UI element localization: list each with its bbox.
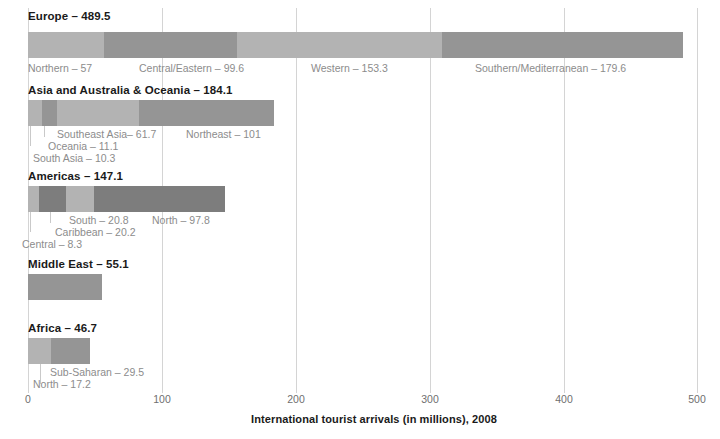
- leader-line-caribbean: [50, 212, 51, 223]
- bar-segment-middle-east: [28, 274, 102, 300]
- segment-label-north: North – 97.8: [152, 214, 210, 226]
- bar-segment-oceania: [42, 100, 57, 126]
- bar-segment-north-africa: [28, 338, 51, 364]
- bar-segment-north: [94, 186, 225, 212]
- bar-segment-southeast-asia: [57, 100, 139, 126]
- region-group-africa: Africa – 46.7 Sub-Saharan – 29.5 North –…: [0, 322, 720, 396]
- tourism-stacked-bar-chart: Europe – 489.5 Northern – 57 Central/Eas…: [0, 0, 720, 439]
- bar-segment-caribbean: [39, 186, 66, 212]
- region-title-africa: Africa – 46.7: [28, 322, 97, 334]
- segment-label-south-asia: South Asia – 10.3: [33, 152, 115, 164]
- plot-area: Europe – 489.5 Northern – 57 Central/Eas…: [0, 0, 720, 396]
- bar-segment-central: [28, 186, 39, 212]
- bar-segment-south-asia: [28, 100, 42, 126]
- x-axis-title: International tourist arrivals (in milli…: [251, 413, 497, 425]
- segment-label-oceania: Oceania – 11.1: [48, 140, 118, 152]
- leader-line-central: [30, 212, 31, 232]
- region-title-europe: Europe – 489.5: [28, 10, 111, 22]
- bar-segment-central-eastern: [104, 32, 237, 58]
- segment-label-northeast: Northeast – 101: [186, 128, 261, 140]
- region-group-americas: Americas – 147.1 South – 20.8 North – 97…: [0, 170, 720, 254]
- bar-segment-northern: [28, 32, 104, 58]
- segment-label-north-africa: North – 17.2: [33, 378, 91, 390]
- bar-asia: [28, 100, 274, 126]
- x-axis-title-wrap: International tourist arrivals (in milli…: [0, 413, 720, 425]
- bar-europe: [28, 32, 683, 58]
- x-tick-0: 0: [25, 393, 31, 405]
- bar-segment-south: [66, 186, 94, 212]
- leader-line-oceania: [44, 126, 45, 137]
- segment-label-caribbean: Caribbean – 20.2: [55, 226, 136, 238]
- x-tick-500: 500: [688, 393, 706, 405]
- region-group-europe: Europe – 489.5 Northern – 57 Central/Eas…: [0, 10, 720, 82]
- bar-americas: [28, 186, 225, 212]
- x-axis: 0 100 200 300 400 500 International tour…: [0, 393, 720, 439]
- leader-line-south-asia: [30, 126, 31, 146]
- region-title-middle-east: Middle East – 55.1: [28, 258, 129, 270]
- region-group-asia: Asia and Australia & Oceania – 184.1 Sou…: [0, 84, 720, 168]
- segment-label-sub-saharan: Sub-Saharan – 29.5: [50, 366, 144, 378]
- bar-segment-southern-mediterranean: [442, 32, 683, 58]
- segment-label-central: Central – 8.3: [22, 238, 82, 250]
- region-group-middle-east: Middle East – 55.1: [0, 258, 720, 308]
- bar-segment-western: [237, 32, 442, 58]
- bar-middle-east: [28, 274, 102, 300]
- bar-segment-northeast: [139, 100, 274, 126]
- x-tick-400: 400: [555, 393, 573, 405]
- region-title-asia: Asia and Australia & Oceania – 184.1: [28, 84, 233, 96]
- region-title-americas: Americas – 147.1: [28, 170, 123, 182]
- segment-label-central-eastern: Central/Eastern – 99.6: [139, 62, 244, 74]
- bar-segment-sub-saharan: [51, 338, 90, 364]
- bar-africa: [28, 338, 90, 364]
- x-tick-200: 200: [287, 393, 305, 405]
- x-tick-300: 300: [421, 393, 439, 405]
- segment-label-southern-mediterranean: Southern/Mediterranean – 179.6: [475, 62, 626, 74]
- segment-label-south: South – 20.8: [69, 214, 129, 226]
- segment-label-northern: Northern – 57: [28, 62, 92, 74]
- x-tick-100: 100: [153, 393, 171, 405]
- segment-label-western: Western – 153.3: [311, 62, 388, 74]
- segment-label-southeast-asia: Southeast Asia– 61.7: [57, 128, 156, 140]
